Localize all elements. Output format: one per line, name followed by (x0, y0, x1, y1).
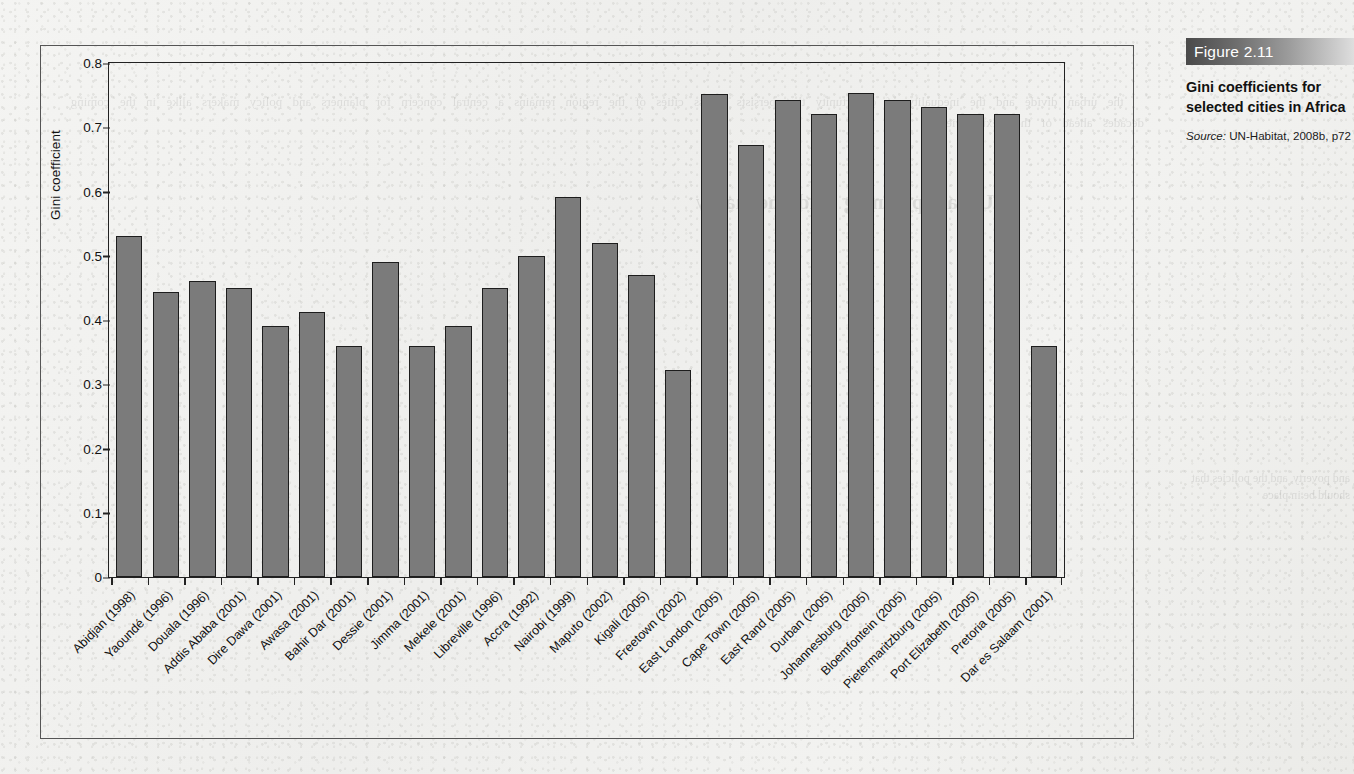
x-label-slot: Mekele (2001) (440, 586, 477, 736)
bar-slot (1025, 63, 1062, 577)
source-label: Source: (1186, 129, 1226, 142)
x-label-slot: Accra (1992) (513, 586, 550, 736)
right-margin-bleed-text: and poverty, and the policies that shoul… (1190, 470, 1350, 504)
bar[interactable] (116, 236, 142, 577)
bar-slot (221, 63, 258, 577)
x-axis-tick (221, 577, 223, 585)
x-label-slot: Dire Dawa (2001) (257, 586, 294, 736)
x-axis-tick (952, 577, 954, 585)
bar-slot (440, 63, 477, 577)
plot-area: 0.80.70.60.50.40.30.20.10 (108, 62, 1065, 578)
y-axis-tick: 0 (94, 570, 109, 585)
figure-caption-title: Gini coefficients for selected cities in… (1186, 78, 1354, 117)
gini-coefficient-bar-chart: Gini coefficient 0.80.70.60.50.40.30.20.… (40, 45, 1134, 739)
x-label-slot: Maputo (2002) (587, 586, 624, 736)
figure-number-badge: Figure 2.11 (1186, 38, 1354, 65)
bar[interactable] (299, 312, 325, 577)
bar[interactable] (445, 326, 471, 577)
x-label-slot: Awasa (2001) (293, 586, 330, 736)
bar-slot (660, 63, 697, 577)
x-axis-tick (916, 577, 918, 585)
bar-slot (587, 63, 624, 577)
bar-slot (623, 63, 660, 577)
bar[interactable] (372, 262, 398, 577)
bar[interactable] (701, 94, 727, 577)
y-axis-tick: 0.4 (83, 313, 109, 328)
bar-slot (843, 63, 880, 577)
bar-slot (367, 63, 404, 577)
x-label-slot: Abidjan (1998) (110, 586, 147, 736)
bar-slot (989, 63, 1026, 577)
x-axis-tick (879, 577, 881, 585)
bar[interactable] (811, 114, 837, 577)
x-label-slot: Dessie (2001) (367, 586, 404, 736)
bar-slot (550, 63, 587, 577)
x-axis-tick (1025, 577, 1027, 585)
x-axis-tick (989, 577, 991, 585)
bar[interactable] (994, 114, 1020, 577)
x-axis-tick (1061, 577, 1063, 585)
bar[interactable] (921, 107, 947, 577)
bar[interactable] (153, 292, 179, 577)
x-axis-tick (367, 577, 369, 585)
x-axis-tick (513, 577, 515, 585)
y-axis-tick: 0.3 (83, 377, 109, 392)
bar[interactable] (738, 145, 764, 577)
y-axis-tick: 0.1 (83, 505, 109, 520)
bar-series (109, 63, 1064, 577)
bar[interactable] (957, 114, 983, 577)
y-axis-title: Gini coefficient (48, 20, 63, 220)
bar[interactable] (555, 197, 581, 577)
bar[interactable] (848, 93, 874, 577)
x-label-slot: Jimma (2001) (403, 586, 440, 736)
bar-slot (806, 63, 843, 577)
x-axis-tick (477, 577, 479, 585)
figure-number-label: Figure 2.11 (1194, 43, 1273, 61)
bar-slot (184, 63, 221, 577)
x-axis-tick (843, 577, 845, 585)
bar-slot (294, 63, 331, 577)
bar[interactable] (1031, 346, 1057, 577)
x-axis-tick (404, 577, 406, 585)
y-axis-tick: 0.8 (83, 56, 109, 71)
x-axis-tick (440, 577, 442, 585)
x-axis-tick (769, 577, 771, 585)
bar[interactable] (189, 281, 215, 577)
x-axis-tick (111, 577, 113, 585)
bar[interactable] (518, 256, 544, 577)
y-axis-tick: 0.6 (83, 184, 109, 199)
bar[interactable] (628, 275, 654, 577)
bar-slot (330, 63, 367, 577)
x-axis-tick (733, 577, 735, 585)
figure-caption-column: Figure 2.11 Gini coefficients for select… (1186, 38, 1354, 143)
bar[interactable] (884, 100, 910, 577)
x-axis-category-labels: Abidjan (1998)Yaoundé (1996)Douala (1996… (108, 586, 1065, 736)
bar[interactable] (226, 288, 252, 577)
bar[interactable] (482, 288, 508, 577)
bar[interactable] (775, 100, 801, 577)
bar[interactable] (665, 370, 691, 577)
y-axis-tick: 0.2 (83, 441, 109, 456)
x-axis-tick (696, 577, 698, 585)
x-axis-tick (550, 577, 552, 585)
bar[interactable] (336, 346, 362, 577)
bar-slot (257, 63, 294, 577)
bar[interactable] (592, 243, 618, 577)
bar[interactable] (409, 346, 435, 577)
bar-slot (733, 63, 770, 577)
bar[interactable] (262, 326, 288, 577)
x-axis-category-label: Abidjan (1998) (70, 588, 138, 656)
bar-slot (879, 63, 916, 577)
x-axis-tick (806, 577, 808, 585)
bar-slot (952, 63, 989, 577)
x-label-slot: Pretoria (2005) (990, 586, 1027, 736)
x-axis-tick (587, 577, 589, 585)
x-label-slot: Dar es Salaam (2001) (1026, 586, 1063, 736)
bar-slot (404, 63, 441, 577)
bar-slot (477, 63, 514, 577)
x-axis-tick (257, 577, 259, 585)
bar-slot (513, 63, 550, 577)
bar-slot (696, 63, 733, 577)
x-axis-tick (294, 577, 296, 585)
figure-source-line: Source: UN-Habitat, 2008b, p72 (1186, 128, 1354, 143)
